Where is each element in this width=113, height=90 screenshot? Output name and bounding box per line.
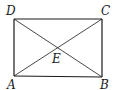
label-c: C xyxy=(101,4,110,18)
label-b: B xyxy=(99,78,109,90)
label-e: E xyxy=(51,52,61,66)
rectangle-diagram: D C A B E xyxy=(0,0,113,90)
label-d: D xyxy=(5,4,16,18)
label-a: A xyxy=(6,78,16,90)
side-ba xyxy=(14,76,102,77)
